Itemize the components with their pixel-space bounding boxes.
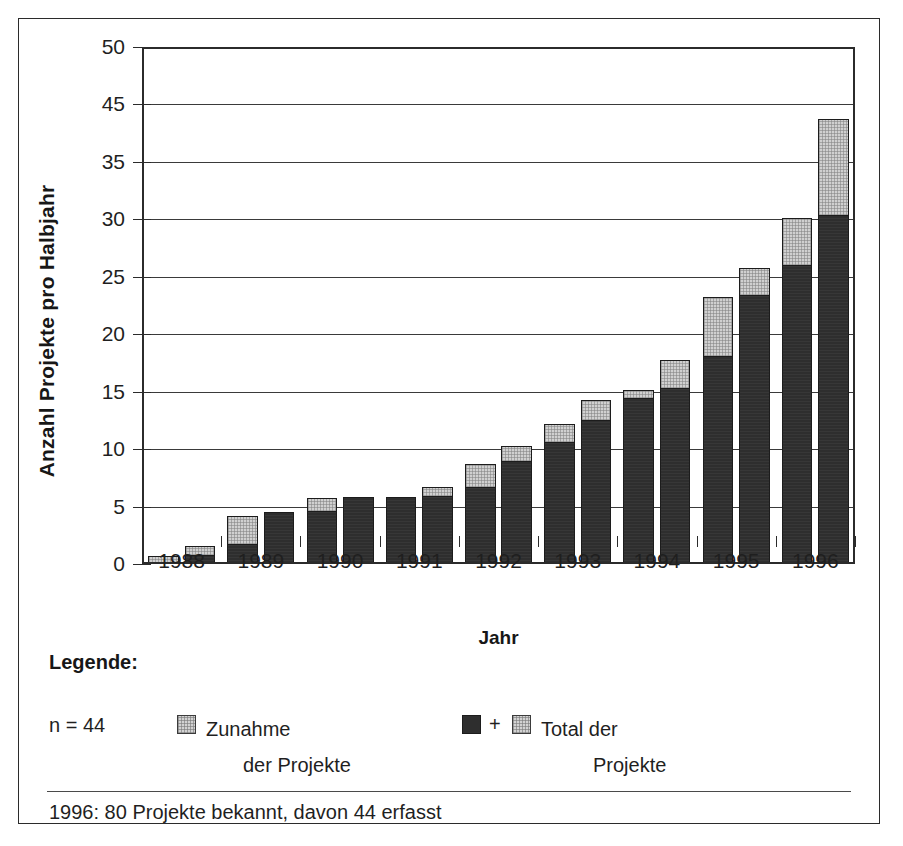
bar-segment-zunahme (819, 120, 848, 215)
legend-zunahme-line1: Zunahme (206, 718, 291, 740)
y-axis-tick-label: 45 (79, 93, 125, 114)
legend-separator (47, 791, 851, 792)
bar-segment-zunahme (308, 499, 337, 512)
bar-segment-zunahme (783, 219, 812, 267)
bar-segment-total (783, 266, 812, 564)
x-axis-label-1991: 1991 (380, 550, 459, 571)
bar-series (142, 47, 855, 564)
y-axis-tick-label: 15 (79, 381, 125, 402)
x-axis-tick (776, 536, 777, 547)
y-axis-tick-label: 20 (79, 323, 125, 344)
bar-1995-h2 (739, 268, 770, 564)
legend-total-line2: Projekte (541, 747, 666, 783)
legend-total-line1: Total der (541, 718, 618, 740)
x-axis-label-1995: 1995 (697, 550, 776, 571)
total-dark-swatch-icon (462, 715, 481, 734)
bar-segment-zunahme (740, 269, 769, 296)
x-axis-label-1993: 1993 (538, 550, 617, 571)
legend-total-label: Total derProjekte (541, 711, 666, 783)
legend-zunahme-label: Zunahmeder Projekte (206, 711, 351, 783)
x-axis-tick (855, 536, 856, 547)
x-axis-title: Jahr (142, 627, 855, 649)
footnote: 1996: 80 Projekte bekannt, davon 44 erfa… (49, 801, 442, 824)
figure-frame: Anzahl Projekte pro Halbjahr 50453530252… (18, 18, 880, 824)
bar-segment-zunahme (423, 488, 452, 496)
bar-segment-zunahme (545, 425, 574, 443)
bar-segment-zunahme (704, 298, 733, 357)
bar-segment-zunahme (228, 517, 257, 545)
legend-n-label: n = 44 (49, 714, 105, 737)
bar-group-1990 (300, 47, 379, 564)
y-axis-tick-label: 25 (79, 266, 125, 287)
bar-1996-h2 (818, 119, 849, 564)
bar-group-1994 (617, 47, 696, 564)
x-axis-tick (617, 536, 618, 547)
legend-title: Legende: (49, 651, 138, 674)
x-axis-tick (538, 536, 539, 547)
bar-1992-h2 (501, 446, 532, 564)
bar-group-1993 (538, 47, 617, 564)
bar-1994-h2 (660, 360, 691, 564)
bar-segment-total (819, 216, 848, 564)
bar-group-1992 (459, 47, 538, 564)
bar-segment-zunahme (466, 465, 495, 489)
bar-group-1989 (221, 47, 300, 564)
bar-1993-h2 (581, 400, 612, 564)
y-axis-tick-label: 0 (79, 553, 125, 574)
bar-1995-h1 (703, 297, 734, 564)
x-axis-label-1992: 1992 (459, 550, 538, 571)
bar-1993-h1 (544, 424, 575, 564)
total-light-swatch-icon (512, 715, 531, 734)
x-axis-tick (380, 536, 381, 547)
bar-segment-total (582, 421, 611, 564)
bar-group-1991 (380, 47, 459, 564)
bar-segment-total (545, 443, 574, 564)
bar-segment-zunahme (661, 361, 690, 389)
x-axis-tick (221, 536, 222, 547)
legend-plus-sign: + (489, 711, 501, 737)
x-axis-label-1994: 1994 (617, 550, 696, 571)
x-axis-tick (459, 536, 460, 547)
legend-zunahme-line2: der Projekte (206, 747, 351, 783)
bar-segment-total (661, 389, 690, 564)
x-axis-tick (300, 536, 301, 547)
x-axis-label-1989: 1989 (221, 550, 300, 571)
bar-1996-h1 (782, 218, 813, 564)
zunahme-swatch-icon (177, 715, 196, 734)
x-axis-tick (697, 536, 698, 547)
y-axis-tick-label: 50 (79, 36, 125, 57)
y-axis-tick-label: 35 (79, 151, 125, 172)
x-axis-label-1988: 1988 (142, 550, 221, 571)
y-axis-title: Anzahl Projekte pro Halbjahr (35, 71, 59, 591)
y-axis-tick-label: 5 (79, 496, 125, 517)
bar-segment-zunahme (582, 401, 611, 422)
bar-1994-h1 (623, 390, 654, 564)
bar-group-1996 (776, 47, 855, 564)
bar-segment-zunahme (502, 447, 531, 461)
x-axis-label-1996: 1996 (776, 550, 855, 571)
x-axis-label-1990: 1990 (300, 550, 379, 571)
plot-area: 504535302520151050 (142, 47, 855, 564)
x-axis-tick (142, 536, 143, 547)
bar-group-1988 (142, 47, 221, 564)
legend: n = 44 Zunahmeder Projekte + Total derPr… (49, 711, 849, 789)
bar-segment-zunahme (624, 391, 653, 398)
bar-group-1995 (697, 47, 776, 564)
bar-segment-total (624, 399, 653, 564)
y-axis-tick-label: 30 (79, 208, 125, 229)
y-axis-tick-label: 10 (79, 438, 125, 459)
bar-segment-total (740, 296, 769, 564)
bar-segment-total (704, 357, 733, 564)
